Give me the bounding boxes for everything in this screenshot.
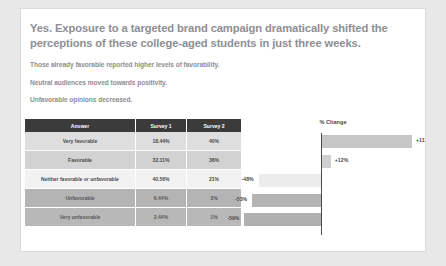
cell-answer: Very favorable — [25, 132, 136, 151]
chart-bar — [321, 135, 412, 148]
body-text-block: Those already favorable reported higher … — [30, 61, 360, 114]
chart-zero-axis — [321, 133, 322, 235]
cell-survey-2: 36% — [187, 151, 242, 170]
cell-survey-1: 6.44% — [136, 189, 187, 208]
cell-answer: Very unfavorable — [25, 208, 136, 227]
cell-answer: Neither favorable or unfavorable — [25, 170, 136, 189]
column-header-answer: Answer — [25, 119, 136, 132]
table-row: Unfavorable 6.44% 3% — [25, 189, 241, 208]
cell-answer: Favorable — [25, 151, 136, 170]
chart-bar-row: +111% — [243, 132, 423, 150]
cell-survey-1: 32.11% — [136, 151, 187, 170]
chart-bar — [252, 194, 321, 207]
column-header-survey-1: Survey 1 — [136, 119, 187, 132]
chart-plot-area: +111%+12%-48%-53%-59% — [243, 130, 423, 238]
cell-answer: Unfavorable — [25, 189, 136, 208]
chart-bar — [244, 213, 321, 226]
chart-bar-label: -59% — [227, 215, 239, 221]
cell-survey-2: 21% — [187, 170, 242, 189]
chart-bar-label: +12% — [335, 157, 348, 163]
table-row: Neither favorable or unfavorable 40.56% … — [25, 170, 241, 189]
column-header-survey-2: Survey 2 — [187, 119, 242, 132]
table-row: Very favorable 18.44% 40% — [25, 132, 241, 151]
body-line: Unfavorable opinions decreased. — [30, 96, 360, 104]
chart-bar-row: +12% — [243, 152, 423, 170]
survey-results-table: Answer Survey 1 Survey 2 Very favorable … — [25, 119, 241, 227]
chart-bar-row: -59% — [243, 210, 423, 228]
table-row: Favorable 32.11% 36% — [25, 151, 241, 170]
chart-bar — [259, 174, 321, 187]
cell-survey-1: 2.44% — [136, 208, 187, 227]
body-line: Neutral audiences moved towards positivi… — [30, 79, 360, 87]
percent-change-chart: % Change +111%+12%-48%-53%-59% — [243, 119, 423, 241]
chart-bar-label: -48% — [242, 176, 254, 182]
body-line: Those already favorable reported higher … — [30, 61, 360, 69]
cell-survey-1: 40.56% — [136, 170, 187, 189]
table-header-row: Answer Survey 1 Survey 2 — [25, 119, 241, 132]
cell-survey-2: 3% — [187, 189, 242, 208]
chart-bar-row: -48% — [243, 171, 423, 189]
slide-card: Yes. Exposure to a targeted brand campai… — [20, 8, 426, 252]
chart-bar-label: +111% — [416, 137, 426, 143]
page-title: Yes. Exposure to a targeted brand campai… — [30, 21, 420, 51]
cell-survey-1: 18.44% — [136, 132, 187, 151]
cell-survey-2: 40% — [187, 132, 242, 151]
chart-bar-row: -53% — [243, 191, 423, 209]
table-row: Very unfavorable 2.44% 1% — [25, 208, 241, 227]
chart-bar-label: -53% — [235, 196, 247, 202]
chart-bar — [321, 155, 331, 168]
chart-title: % Change — [293, 119, 373, 125]
